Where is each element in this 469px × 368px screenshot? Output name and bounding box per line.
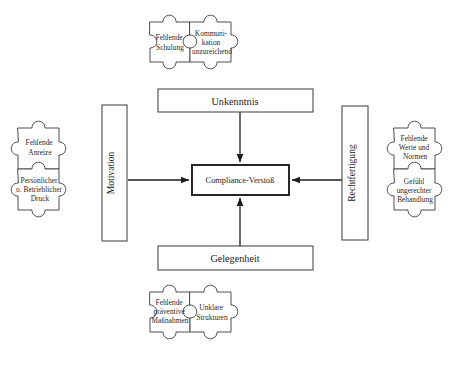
puzzle-piece-bottom-2-label: Unklare Strukturen — [196, 303, 228, 322]
box-unkenntnis-label: Unkenntnis — [212, 96, 259, 107]
puzzle-group-top: Fehlende Schulung Kommuni- kation unzure… — [150, 15, 238, 69]
puzzle-piece-top-1 — [150, 15, 190, 69]
puzzle-group-left: Fehlende Anreize Persönlicher o. Betrieb… — [11, 121, 66, 217]
puzzle-piece-top-1-label: Fehlende Schulung — [156, 33, 185, 52]
puzzle-group-right: Fehlende Werte und Normen Gefühl ungerec… — [387, 121, 442, 217]
box-gelegenheit-label: Gelegenheit — [210, 253, 259, 264]
puzzle-group-bottom: Fehlende präventive Maßnahmen Unklare St… — [150, 285, 238, 339]
puzzle-piece-bottom-2 — [190, 285, 238, 339]
puzzle-piece-bottom-1-label: Fehlende präventive Maßnahmen — [152, 298, 189, 325]
box-rechtfertigung-label: Rechtfertigung — [346, 144, 357, 202]
diagram-canvas: Fehlende Schulung Kommuni- kation unzure… — [0, 0, 469, 368]
puzzle-piece-right-1-label: Fehlende Werte und Normen — [399, 134, 431, 161]
compliance-diagram: Fehlende Schulung Kommuni- kation unzure… — [0, 0, 469, 368]
box-motivation-label: Motivation — [105, 151, 116, 194]
box-compliance-verstoss-label: Compliance-Verstoß — [206, 176, 275, 185]
puzzle-piece-left-1-label: Fehlende Anreize — [26, 138, 55, 157]
